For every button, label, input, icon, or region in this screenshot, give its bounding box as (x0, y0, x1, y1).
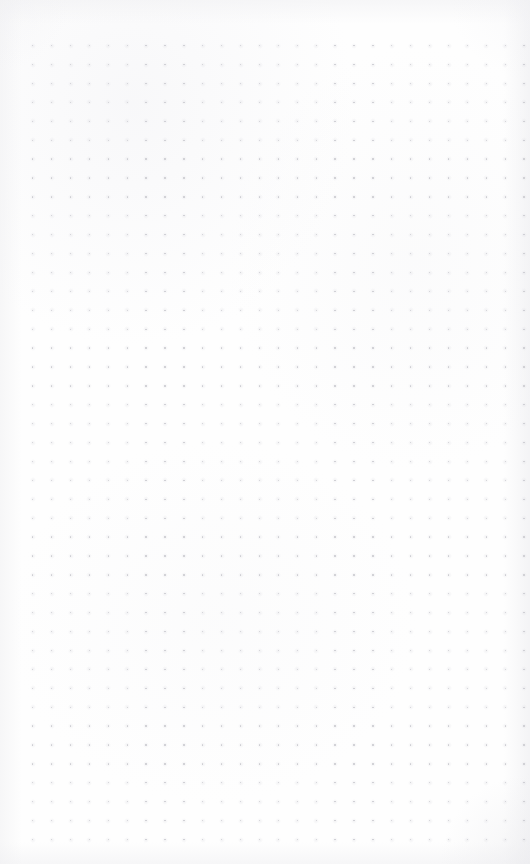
page-content-area[interactable] (0, 0, 530, 864)
dot-grid-page (0, 0, 530, 864)
